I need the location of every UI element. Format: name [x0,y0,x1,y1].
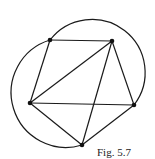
segment-ac [30,40,50,103]
point-d [132,103,137,108]
point-e [80,143,85,148]
figure-caption: Fig. 5.7 [97,146,131,158]
segment-be [82,41,112,145]
geometry-figure [0,0,155,159]
small-circle-arc [11,40,82,147]
point-b [110,39,115,44]
segment-ce [30,103,82,145]
segment-bd [112,41,134,105]
segment-cb [30,41,112,103]
point-c [28,101,33,106]
point-a [48,38,53,43]
segment-ed [82,105,134,145]
segment-ab [50,40,112,41]
segment-cd [30,103,134,105]
